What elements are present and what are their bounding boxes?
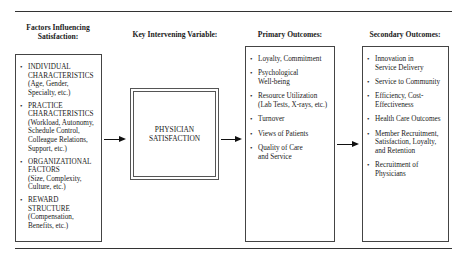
factor-title: REWARD STRUCTURE [28, 196, 70, 213]
secondary-outcome-item: Recruitment of Physicians [366, 161, 446, 178]
bottom-rule [15, 248, 452, 249]
primary-outcome-item: Quality of Care and Service [249, 144, 331, 161]
key-variable-line2: SATISFACTION [149, 134, 200, 143]
primary-outcomes-header: Primary Outcomes: [240, 30, 340, 39]
primary-outcome-item: Loyalty, Commitment [249, 55, 331, 64]
factor-detail: (Compensation, Benefits, etc.) [28, 213, 74, 230]
factors-header-line1: Factors Influencing [10, 23, 106, 32]
primary-outcome-item: Psychological Well-being [249, 69, 331, 86]
key-variable-inner: PHYSICIAN SATISFACTION [133, 91, 216, 177]
secondary-outcome-item: Efficiency, Cost-Effectiveness [366, 92, 446, 109]
key-variable-line1: PHYSICIAN [149, 125, 200, 134]
primary-outcome-item: Turnover [249, 115, 331, 124]
factor-title: INDIVIDUAL CHARACTERISTICS [28, 63, 94, 80]
secondary-outcome-item: Member Recruitment, Satisfaction, Loyalt… [366, 130, 446, 156]
secondary-outcome-item: Innovation in Service Delivery [366, 55, 446, 72]
factor-title: PRACTICE CHARACTERISTICS [28, 102, 94, 119]
arrow-right-icon [221, 139, 240, 140]
factors-header: Factors Influencing Satisfaction: [10, 23, 106, 41]
secondary-outcome-item: Health Care Outcomes [366, 115, 446, 124]
arrow-right-icon [104, 139, 124, 140]
factor-item: PRACTICE CHARACTERISTICS(Workload, Auton… [19, 102, 98, 154]
primary-outcomes-box: Loyalty, Commitment Psychological Well-b… [245, 46, 335, 242]
factor-detail: (Age, Gender, Specialty, etc.) [28, 80, 70, 97]
factor-item: REWARD STRUCTURE(Compensation, Benefits,… [19, 196, 98, 230]
factors-header-line2: Satisfaction: [10, 32, 106, 41]
arrow-right-icon [337, 144, 357, 145]
factors-list: INDIVIDUAL CHARACTERISTICS(Age, Gender, … [19, 63, 98, 231]
primary-outcome-item: Resource Utilization (Lab Tests, X-rays,… [249, 92, 331, 109]
factor-item: ORGANIZATIONAL FACTORS(Size, Complexity,… [19, 158, 98, 192]
factors-box: INDIVIDUAL CHARACTERISTICS(Age, Gender, … [15, 54, 102, 242]
primary-outcome-item: Views of Patients [249, 130, 331, 139]
secondary-outcomes-box: Innovation in Service Delivery Service t… [362, 46, 449, 242]
factor-title: ORGANIZATIONAL FACTORS [28, 158, 91, 175]
top-rule [15, 11, 452, 12]
factor-detail: (Workload, Autonomy, Schedule Control, C… [28, 119, 94, 153]
key-variable-box: PHYSICIAN SATISFACTION [130, 88, 219, 180]
primary-outcomes-list: Loyalty, Commitment Psychological Well-b… [249, 55, 331, 161]
key-variable-header: Key Intervening Variable: [115, 30, 235, 39]
secondary-outcome-item: Service to Community [366, 78, 446, 87]
secondary-outcomes-list: Innovation in Service Delivery Service t… [366, 55, 446, 179]
factor-detail: (Size, Complexity, Culture, etc.) [28, 175, 82, 192]
factor-item: INDIVIDUAL CHARACTERISTICS(Age, Gender, … [19, 63, 98, 97]
secondary-outcomes-header: Secondary Outcomes: [357, 30, 453, 39]
